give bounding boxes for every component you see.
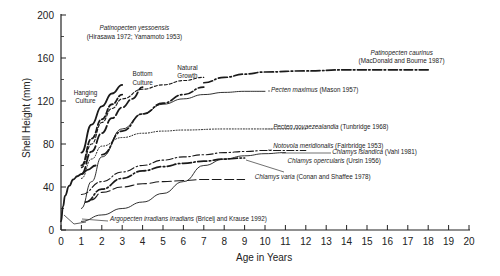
annotations: Patinopecten yessoensis(Hirasawa 1972; Y…: [74, 24, 445, 223]
x-tick-label: 18: [423, 236, 435, 247]
x-ticks: 01234567891011121314151617181920: [58, 225, 475, 247]
x-tick-label: 13: [321, 236, 333, 247]
y-axis-label: Shell Height (mm): [21, 78, 32, 158]
annotation-label: Growth: [177, 72, 198, 79]
annotation-label: Chlamys opercularis (Ursin 1956): [287, 157, 380, 165]
annotation-label: (Hirasawa 1972; Yamamoto 1953): [87, 33, 182, 41]
x-tick-label: 1: [79, 236, 85, 247]
y-tick-label: 160: [37, 53, 54, 64]
annotation-label: Culture: [132, 79, 153, 86]
x-tick-label: 19: [443, 236, 455, 247]
x-tick-label: 10: [259, 236, 271, 247]
series-line-10: [92, 179, 245, 199]
x-tick-label: 0: [58, 236, 64, 247]
series-line-12: [61, 166, 96, 222]
x-tick-label: 12: [300, 236, 312, 247]
annotation-label: Culture: [75, 97, 96, 104]
annotation-label: Argopecten irradians irradians (Bricelj …: [109, 215, 267, 223]
chart-canvas: 04080120160200 0123456789101112131415161…: [0, 0, 500, 276]
x-tick-label: 9: [242, 236, 248, 247]
y-tick-label: 200: [37, 10, 54, 21]
x-tick-label: 17: [402, 236, 414, 247]
annotation-label: Patinopecten caurinus: [371, 49, 434, 57]
x-tick-label: 3: [119, 236, 125, 247]
x-tick-label: 4: [140, 236, 146, 247]
x-tick-label: 5: [160, 236, 166, 247]
annotation-label: Patinopecten yessoensis: [100, 24, 171, 32]
y-tick-label: 40: [43, 182, 55, 193]
annotation-label: Pecten maximus (Mason 1957): [271, 86, 358, 94]
connector-argopecten: [64, 215, 74, 224]
annotation-label: Pecten novaezealandia (Tunbridge 1968): [273, 123, 388, 131]
annotation-label: Chlamys islandica (Vahl 1981): [332, 148, 417, 156]
x-tick-label: 2: [99, 236, 105, 247]
x-axis-label: Age in Years: [236, 252, 292, 263]
growth-curve-chart: 04080120160200 0123456789101112131415161…: [0, 0, 500, 276]
y-ticks: 04080120160200: [37, 10, 66, 236]
connector-chlamys-opercularis: [246, 160, 284, 172]
x-tick-label: 6: [181, 236, 187, 247]
series-line-2: [81, 77, 203, 167]
series-line-4: [102, 87, 204, 155]
x-tick-label: 16: [382, 236, 394, 247]
annotation-label: Bottom: [133, 70, 153, 77]
x-tick-label: 8: [221, 236, 227, 247]
x-tick-label: 14: [341, 236, 353, 247]
x-tick-label: 15: [361, 236, 373, 247]
y-tick-label: 80: [43, 139, 55, 150]
y-tick-label: 120: [37, 96, 54, 107]
x-tick-label: 7: [201, 236, 207, 247]
series-line-5: [204, 70, 428, 83]
connector-argopecten-2: [74, 222, 86, 224]
annotation-label: Chlamys varia (Conan and Shaffee 1978): [255, 173, 371, 181]
y-tick-label: 0: [48, 225, 54, 236]
annotation-label: Natural: [177, 64, 197, 71]
x-tick-label: 20: [463, 236, 475, 247]
x-tick-label: 11: [280, 236, 291, 247]
axes: 04080120160200 0123456789101112131415161…: [21, 10, 475, 264]
annotation-label: (MacDonald and Bourne 1987): [359, 57, 445, 65]
annotation-label: Hanging: [74, 89, 98, 97]
